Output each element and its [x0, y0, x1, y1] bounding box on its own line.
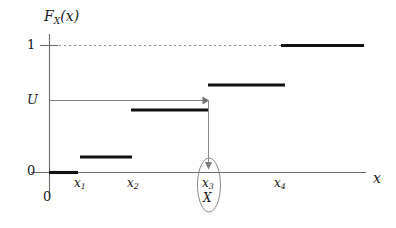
x-tick-label-4-base: x — [274, 176, 281, 190]
x-tick-label-2: x2 — [127, 177, 139, 191]
arrow-head-down-icon — [205, 162, 212, 170]
x-tick-label-1: x1 — [74, 177, 86, 191]
cdf-inverse-transform-figure: FX(x) 1 U 0 0 x1 x2 x3 x4 X x — [0, 0, 396, 228]
x-tick-label-1-base: x — [74, 176, 81, 190]
y-tick-label-u: U — [27, 93, 38, 106]
y-axis-title: FX(x) — [44, 9, 79, 25]
x-tick-label-3-base: x — [202, 176, 209, 190]
x-tick-label-3-subscript: 3 — [209, 182, 214, 191]
x-tick-label-4-subscript: 4 — [281, 182, 286, 191]
y-axis-title-argument: (x) — [60, 8, 79, 24]
origin-label: 0 — [43, 190, 51, 203]
x-tick-label-4: x4 — [274, 177, 286, 191]
x-tick-label-2-base: x — [127, 176, 134, 190]
y-tick-label-one: 1 — [27, 38, 35, 51]
figure-canvas — [0, 0, 396, 228]
highlight-variable-label: X — [203, 192, 212, 204]
y-axis-title-F: F — [44, 8, 54, 24]
x-tick-label-1-subscript: 1 — [81, 182, 86, 191]
y-tick-label-zero: 0 — [27, 164, 35, 177]
x-tick-label-2-subscript: 2 — [134, 182, 139, 191]
x-tick-label-3: x3 — [202, 177, 214, 191]
x-axis-title: x — [373, 171, 381, 185]
